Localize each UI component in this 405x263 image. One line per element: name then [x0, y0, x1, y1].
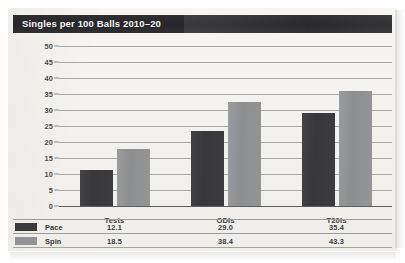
scanned-page: Singles per 100 Balls 2010–20 0510152025… — [0, 0, 405, 263]
legend-swatch-spin — [15, 237, 37, 245]
y-axis-tick-label: 35 — [45, 90, 53, 99]
table-cell-spin-odis: 38.4 — [218, 237, 233, 246]
title-bar-sheen — [184, 15, 392, 33]
y-axis-tick-label: 15 — [45, 154, 53, 163]
legend-label-spin: Spin — [45, 237, 61, 246]
table-cell-spin-t20is: 43.3 — [329, 237, 344, 246]
bar-series-layer — [59, 38, 392, 214]
table-row: Spin18.538.443.3 — [13, 233, 392, 248]
table-bottom-rule — [13, 247, 392, 248]
table-cell-spin-tests: 18.5 — [107, 237, 122, 246]
chart-plot-area: 05101520253035404550 — [13, 38, 392, 214]
data-table: Pace12.129.035.4Spin18.538.443.3 — [13, 219, 392, 248]
y-axis-tick-label: 45 — [45, 58, 53, 67]
page-shadow-bottom — [10, 252, 396, 261]
y-axis: 05101520253035404550 — [13, 38, 59, 214]
legend-label-pace: Pace — [45, 223, 63, 232]
bar-pace-odis — [191, 131, 224, 206]
table-row: Pace12.129.035.4 — [13, 219, 392, 233]
bar-pace-t20is — [302, 113, 335, 206]
chart-title-bar: Singles per 100 Balls 2010–20 — [13, 15, 392, 33]
y-axis-tick-label: 0 — [49, 202, 53, 211]
table-cell-pace-odis: 29.0 — [218, 223, 233, 232]
y-axis-tick-label: 30 — [45, 106, 53, 115]
bar-pace-tests — [80, 170, 113, 206]
bar-spin-tests — [117, 149, 150, 206]
bar-spin-odis — [228, 102, 261, 206]
page-shadow-right — [395, 10, 405, 248]
bar-spin-t20is — [339, 91, 372, 206]
y-axis-tick-label: 40 — [45, 74, 53, 83]
y-axis-tick-label: 10 — [45, 170, 53, 179]
y-axis-tick-label: 20 — [45, 138, 53, 147]
y-axis-tick-label: 5 — [49, 186, 53, 195]
page-title: Singles per 100 Balls 2010–20 — [22, 18, 161, 29]
legend-swatch-pace — [15, 223, 37, 231]
y-axis-tick-label: 50 — [45, 42, 53, 51]
y-axis-tick-label: 25 — [45, 122, 53, 131]
table-cell-pace-t20is: 35.4 — [329, 223, 344, 232]
table-cell-pace-tests: 12.1 — [107, 223, 122, 232]
